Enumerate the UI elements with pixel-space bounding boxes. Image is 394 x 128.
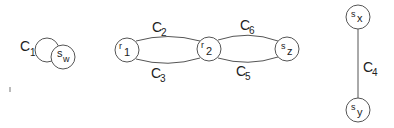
edge-label-sub: 3 [160,73,166,84]
node-s-y: s y [346,98,370,122]
edge-c5-arc [218,57,278,62]
node-label-sub: 2 [206,45,212,57]
node-label-sub: z [287,45,293,57]
edge-c2-arc [136,37,200,42]
node-label-sub: 1 [124,46,130,58]
edge-label-sub: 1 [30,47,36,58]
edge-label-base: C [20,38,30,54]
node-s-x: s x [346,5,370,29]
edge-label-sub: 6 [249,25,255,36]
node-label-sub: y [357,106,363,118]
node-label-base: s [351,102,356,112]
node-s-w: s w [51,45,75,69]
edge-c6-arc [218,35,278,41]
node-r-1: r 1 [115,38,139,62]
edge-label-c3: C 3 [151,65,166,84]
node-label-base: s [281,41,286,51]
edge-label-sub: 5 [245,71,251,82]
edge-label-c2: C 2 [152,19,167,38]
node-label-sub: x [357,12,363,24]
node-r-2: r 2 [197,37,221,61]
edge-label-sub: 4 [372,67,378,78]
graph-diagram: s w C 1 r 1 r 2 s z s x s y C 2 [0,0,394,128]
node-label-base: s [351,9,356,19]
node-label-base: r [119,41,122,51]
edge-label-c1: C 1 [20,38,36,58]
edge-label-c6: C 6 [240,17,255,36]
node-s-z: s z [275,37,299,61]
edge-c3-arc [136,58,200,63]
edge-label-c5: C 5 [236,63,251,82]
node-label-sub: w [62,54,70,64]
edge-label-sub: 2 [161,27,167,38]
scan-artifact [9,87,11,92]
edge-label-c4: C 4 [363,59,378,78]
node-label-base: r [201,40,204,50]
